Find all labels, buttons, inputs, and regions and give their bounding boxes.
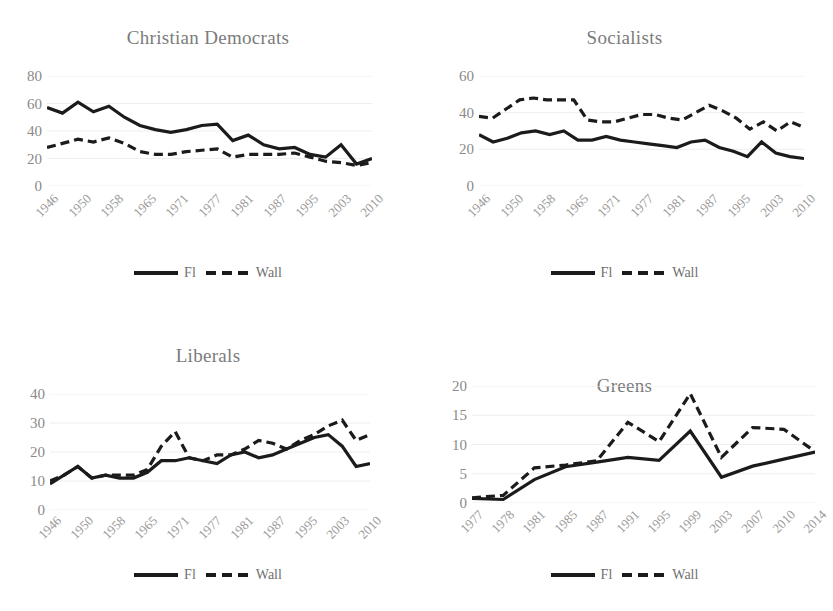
y-axis-tick-label: 40 xyxy=(8,124,42,139)
y-axis-tick-label: 0 xyxy=(433,496,467,511)
x-axis-tick-label: 1999 xyxy=(676,508,704,536)
y-axis-tick-label: 40 xyxy=(440,106,474,121)
dashed-line-icon xyxy=(206,573,250,577)
panel-title: Liberals xyxy=(0,345,416,367)
y-axis-tick-label: 60 xyxy=(440,69,474,84)
y-axis-tick-label: 20 xyxy=(11,445,45,460)
x-axis-tick-label: 1978 xyxy=(489,508,517,536)
x-axis-tick-label: 1985 xyxy=(552,508,580,536)
legend-label-wall: Wall xyxy=(256,568,282,582)
dashed-line-icon xyxy=(206,271,250,275)
y-axis-tick-label: 0 xyxy=(8,179,42,194)
plot-area xyxy=(479,76,804,186)
x-axis-tick-label: 1950 xyxy=(68,514,96,542)
legend-item-wall: Wall xyxy=(206,266,282,280)
series-line-fl xyxy=(479,131,804,159)
x-axis-tick-label: 2010 xyxy=(770,508,798,536)
plot-svg xyxy=(47,76,372,186)
x-axis-tick-label: 1950 xyxy=(66,192,94,220)
series-line-wall xyxy=(50,420,370,481)
chart-grid: Christian Democrats Fl Wall 020406080194… xyxy=(0,0,833,611)
legend-label-wall: Wall xyxy=(672,266,698,280)
legend-item-wall: Wall xyxy=(206,568,282,582)
plot-area xyxy=(47,76,372,186)
panel-greens: Greens Fl Wall 0510152019771978198119851… xyxy=(416,305,833,611)
plot-svg xyxy=(50,394,370,510)
x-axis-tick-label: 1987 xyxy=(260,514,288,542)
x-axis-tick-label: 1991 xyxy=(614,508,642,536)
plot-area xyxy=(472,386,815,503)
x-axis-tick-label: 1971 xyxy=(595,192,623,220)
panel-socialists: Socialists Fl Wall 020406019461950195819… xyxy=(416,0,833,305)
legend-item-wall: Wall xyxy=(622,266,698,280)
x-axis-tick-label: 2014 xyxy=(801,508,829,536)
x-axis-tick-label: 2010 xyxy=(790,192,818,220)
x-axis-tick-label: 1995 xyxy=(725,192,753,220)
x-axis-tick-label: 1971 xyxy=(164,514,192,542)
x-axis-tick-label: 1977 xyxy=(196,192,224,220)
panel-title: Christian Democrats xyxy=(0,27,416,49)
panel-christian-democrats: Christian Democrats Fl Wall 020406080194… xyxy=(0,0,416,305)
x-axis-tick-label: 1950 xyxy=(498,192,526,220)
series-line-wall xyxy=(47,138,372,166)
x-axis-tick-label: 1946 xyxy=(465,192,493,220)
x-axis-tick-label: 1987 xyxy=(693,192,721,220)
legend-label-wall: Wall xyxy=(256,266,282,280)
x-axis-tick-label: 2003 xyxy=(324,514,352,542)
legend-item-fl: Fl xyxy=(551,266,613,280)
legend: Fl Wall xyxy=(0,568,416,582)
plot-area xyxy=(50,394,370,510)
legend-label-fl: Fl xyxy=(601,568,613,582)
x-axis-tick-label: 2010 xyxy=(358,192,386,220)
legend-item-fl: Fl xyxy=(551,568,613,582)
legend-label-fl: Fl xyxy=(601,266,613,280)
legend-label-fl: Fl xyxy=(184,266,196,280)
x-axis-tick-label: 1965 xyxy=(132,514,160,542)
x-axis-tick-label: 2003 xyxy=(707,508,735,536)
x-axis-tick-label: 1977 xyxy=(458,508,486,536)
x-axis-tick-label: 1987 xyxy=(261,192,289,220)
x-axis-tick-label: 2007 xyxy=(739,508,767,536)
dashed-line-icon xyxy=(622,271,666,275)
x-axis-tick-label: 1977 xyxy=(628,192,656,220)
x-axis-tick-label: 2003 xyxy=(758,192,786,220)
y-axis-tick-label: 0 xyxy=(11,503,45,518)
legend: Fl Wall xyxy=(416,266,833,280)
y-axis-tick-label: 0 xyxy=(440,179,474,194)
y-axis-tick-label: 80 xyxy=(8,69,42,84)
y-axis-tick-label: 15 xyxy=(433,408,467,423)
x-axis-tick-label: 1958 xyxy=(100,514,128,542)
legend-label-wall: Wall xyxy=(672,568,698,582)
y-axis-tick-label: 10 xyxy=(11,474,45,489)
series-line-wall xyxy=(472,394,815,498)
x-axis-tick-label: 1981 xyxy=(228,514,256,542)
x-axis-tick-label: 1995 xyxy=(645,508,673,536)
legend: Fl Wall xyxy=(0,266,416,280)
x-axis-tick-label: 1995 xyxy=(292,514,320,542)
x-axis-tick-label: 1971 xyxy=(163,192,191,220)
plot-svg xyxy=(479,76,804,186)
y-axis-tick-label: 20 xyxy=(433,379,467,394)
plot-svg xyxy=(472,386,815,503)
panel-liberals: Liberals Fl Wall 01020304019461950195819… xyxy=(0,305,416,611)
x-axis-tick-label: 1958 xyxy=(530,192,558,220)
x-axis-tick-label: 1946 xyxy=(33,192,61,220)
x-axis-tick-label: 1981 xyxy=(660,192,688,220)
legend: Fl Wall xyxy=(416,568,833,582)
x-axis-tick-label: 1965 xyxy=(563,192,591,220)
legend-item-wall: Wall xyxy=(622,568,698,582)
solid-line-icon xyxy=(134,573,178,577)
y-axis-tick-label: 10 xyxy=(433,438,467,453)
solid-line-icon xyxy=(134,271,178,275)
x-axis-tick-label: 1987 xyxy=(583,508,611,536)
legend-item-fl: Fl xyxy=(134,266,196,280)
legend-label-fl: Fl xyxy=(184,568,196,582)
series-line-wall xyxy=(479,98,804,131)
x-axis-tick-label: 2010 xyxy=(356,514,384,542)
y-axis-tick-label: 60 xyxy=(8,97,42,112)
x-axis-tick-label: 1965 xyxy=(131,192,159,220)
y-axis-tick-label: 20 xyxy=(8,152,42,167)
y-axis-tick-label: 40 xyxy=(11,387,45,402)
x-axis-tick-label: 1981 xyxy=(520,508,548,536)
y-axis-tick-label: 30 xyxy=(11,416,45,431)
